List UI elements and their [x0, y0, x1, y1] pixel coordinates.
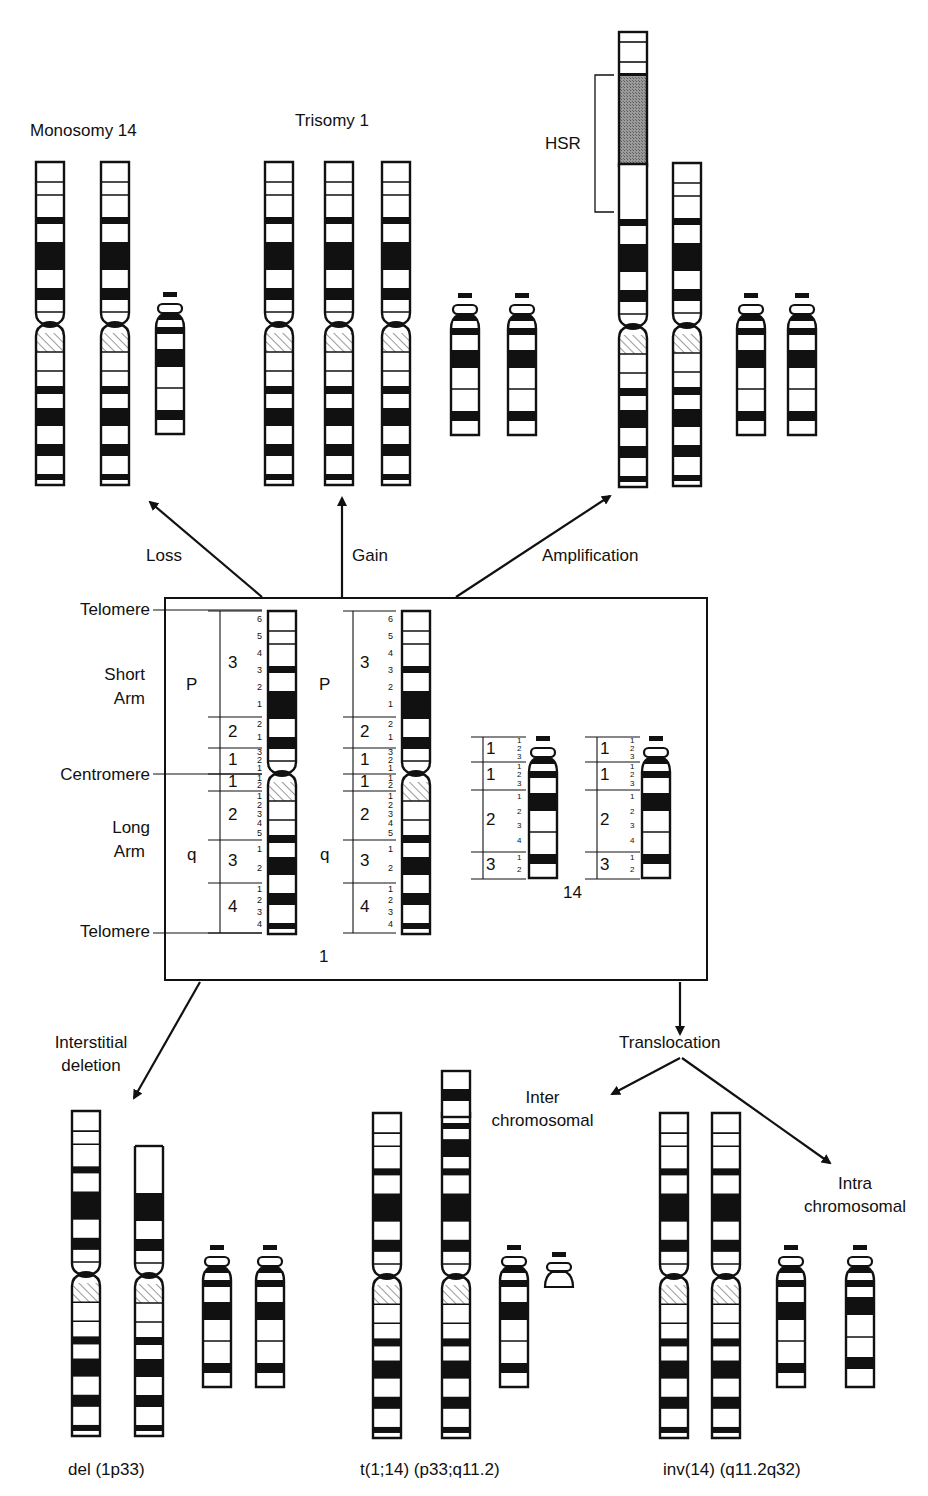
chr14-band-number: 3 — [517, 780, 521, 788]
hsr-label: HSR — [545, 134, 581, 154]
chr14-region-number: 1 — [600, 740, 609, 757]
caption-inversion: inv(14) (q11.2q32) — [663, 1460, 801, 1480]
chr1-band-number: 5 — [257, 829, 262, 838]
chr1-band-number: 2 — [388, 896, 393, 905]
intra-chromosomal-label-2: chromosomal — [785, 1197, 925, 1217]
hsr-bracket — [595, 75, 614, 212]
chr14-band-number: 3 — [630, 753, 634, 761]
chr1-band-number: 4 — [388, 819, 393, 828]
gain-label: Gain — [352, 546, 388, 566]
chr1-band-number: 6 — [388, 615, 393, 624]
interstitial-label-2: deletion — [36, 1056, 146, 1076]
loss-label: Loss — [146, 546, 182, 566]
chr14-band-number: 3 — [630, 822, 634, 830]
chr1-band-number: 2 — [257, 781, 262, 790]
chr1-band-number: 4 — [388, 649, 393, 658]
chr14-region-number: 1 — [486, 740, 495, 757]
telomere-top-label: Telomere — [40, 600, 150, 620]
chr14-number-label: 14 — [563, 883, 582, 903]
chr14-band-number: 2 — [630, 866, 634, 874]
chr1-arm-p-label-b: P — [319, 675, 330, 695]
chr1-band-number: 4 — [257, 819, 262, 828]
chr1-band-number: 3 — [388, 666, 393, 675]
chr14-band-number: 1 — [517, 793, 521, 801]
chr14-band-number: 3 — [517, 753, 521, 761]
chr1-region-number: 4 — [228, 898, 237, 915]
chr1-band-number: 1 — [388, 764, 393, 773]
chr1-region-number: 2 — [228, 723, 237, 740]
chr14-band-number: 3 — [630, 780, 634, 788]
chr1-region-number: 1 — [228, 773, 237, 790]
chr14-band-number: 4 — [630, 837, 634, 845]
inter-chromosomal-label-1: Inter — [470, 1088, 615, 1108]
chr1-band-number: 1 — [388, 700, 393, 709]
amplification-label: Amplification — [542, 546, 638, 566]
translocation-label: Translocation — [619, 1033, 720, 1053]
ideogram-box — [165, 598, 707, 980]
chr1-arm-q-label-a: q — [187, 845, 196, 865]
chr14-band-number: 2 — [517, 866, 521, 874]
chr1-region-number: 4 — [360, 898, 369, 915]
chr14-region-number: 1 — [600, 766, 609, 783]
chr1-region-number: 2 — [360, 723, 369, 740]
telomere-bottom-label: Telomere — [40, 922, 150, 942]
chr1-band-number: 1 — [257, 885, 262, 894]
chr1-band-number: 1 — [388, 885, 393, 894]
chr1-band-number: 1 — [257, 764, 262, 773]
chr14-region-number: 2 — [600, 811, 609, 828]
short-arm-label-2: Arm — [40, 689, 145, 709]
chr14-band-number: 4 — [517, 837, 521, 845]
chr1-number-label: 1 — [319, 947, 328, 967]
chr1-band-number: 2 — [257, 896, 262, 905]
chr1-region-number: 3 — [228, 852, 237, 869]
chr1-band-number: 4 — [388, 920, 393, 929]
diagram-graphics — [0, 0, 928, 1496]
intra-chromosomal-label-1: Intra — [785, 1174, 925, 1194]
short-arm-label-1: Short — [40, 665, 145, 685]
monosomy-title: Monosomy 14 — [30, 121, 137, 141]
chr1-region-number: 3 — [228, 654, 237, 671]
chr1-region-number: 1 — [360, 773, 369, 790]
caption-translocation: t(1;14) (p33;q11.2) — [360, 1460, 500, 1480]
chr1-region-number: 2 — [360, 806, 369, 823]
chr1-band-number: 5 — [388, 829, 393, 838]
chr14-band-number: 2 — [517, 808, 521, 816]
chr1-band-number: 5 — [388, 632, 393, 641]
chr1-band-number: 2 — [257, 683, 262, 692]
interstitial-label-1: Interstitial — [36, 1033, 146, 1053]
chr1-region-number: 3 — [360, 852, 369, 869]
chr1-band-number: 1 — [257, 700, 262, 709]
chr14-band-number: 1 — [630, 793, 634, 801]
chr1-region-number: 1 — [360, 751, 369, 768]
chr14-region-number: 3 — [486, 856, 495, 873]
chr1-band-number: 2 — [257, 720, 262, 729]
chr1-band-number: 3 — [257, 666, 262, 675]
chr1-region-number: 3 — [360, 654, 369, 671]
chr1-band-number: 2 — [388, 683, 393, 692]
chr1-band-number: 1 — [388, 845, 393, 854]
chr14-region-number: 3 — [600, 856, 609, 873]
chr14-band-number: 3 — [517, 822, 521, 830]
chr1-band-number: 3 — [388, 908, 393, 917]
long-arm-label-1: Long — [40, 818, 150, 838]
chromosomes — [36, 32, 874, 1438]
chr1-band-number: 2 — [388, 720, 393, 729]
arrow-inter-chromosomal — [612, 1058, 680, 1094]
chr14-region-number: 1 — [486, 766, 495, 783]
arrow-intra-chromosomal — [682, 1058, 830, 1163]
chr1-band-number: 2 — [257, 864, 262, 873]
landmark-ticks — [153, 610, 262, 933]
chr1-band-number: 1 — [257, 733, 262, 742]
chr1-band-number: 6 — [257, 615, 262, 624]
chr1-band-number: 5 — [257, 632, 262, 641]
chr1-band-number: 1 — [257, 845, 262, 854]
chr14-band-number: 1 — [517, 854, 521, 862]
chr1-band-number: 3 — [257, 908, 262, 917]
chr1-band-number: 2 — [388, 781, 393, 790]
trisomy-title: Trisomy 1 — [295, 111, 369, 131]
chr1-arm-q-label-b: q — [320, 845, 329, 865]
chr1-band-number: 1 — [388, 733, 393, 742]
chr1-band-number: 4 — [257, 649, 262, 658]
chr1-arm-p-label-a: P — [186, 675, 197, 695]
chr1-band-number: 4 — [257, 920, 262, 929]
